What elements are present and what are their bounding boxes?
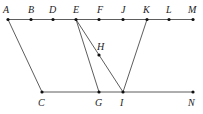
label-B: B [28,4,34,15]
label-N: N [187,97,196,108]
point-L [167,18,170,21]
label-L: L [165,4,172,15]
point-F [97,18,100,21]
point-G [97,90,100,93]
point-M [191,18,194,21]
point-D [51,18,54,21]
segment-AC [8,20,42,93]
label-E: E [72,4,79,15]
point-K [145,18,148,21]
label-D: D [48,4,57,15]
point-B [29,18,32,21]
line-segments [8,20,193,93]
geometry-diagram: ABDEFJKLMHCGIN [0,0,203,114]
point-A [6,18,9,21]
label-F: F [96,4,104,15]
label-G: G [95,97,102,108]
label-A: A [2,4,10,15]
label-I: I [119,97,124,108]
label-K: K [142,4,151,15]
label-H: H [96,41,105,52]
point-H [97,53,100,56]
points [6,18,194,94]
point-C [40,90,43,93]
point-E [74,18,77,21]
label-J: J [121,4,126,15]
segment-KI [123,20,147,93]
segment-EG [76,20,99,93]
point-I [121,90,124,93]
label-M: M [187,4,197,15]
point-N [191,90,194,93]
label-C: C [38,97,45,108]
point-J [121,18,124,21]
